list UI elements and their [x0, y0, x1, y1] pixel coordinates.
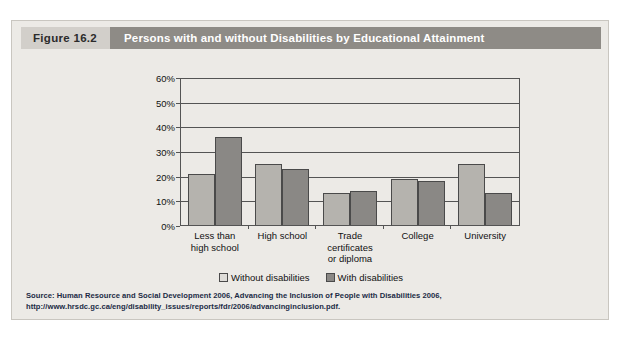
x-axis-label: University — [451, 230, 519, 265]
bar — [188, 174, 215, 225]
y-tick-mark-40 — [176, 127, 180, 128]
legend-swatch-icon — [326, 273, 335, 282]
bar-group — [249, 79, 317, 225]
x-axis-label-line: University — [451, 230, 519, 242]
chart-legend: Without disabilitiesWith disabilities — [21, 272, 601, 283]
bar-group — [316, 79, 384, 225]
y-tick-mark-30 — [176, 152, 180, 153]
bar — [458, 164, 485, 225]
y-tick-label-60: 60% — [156, 73, 175, 84]
x-axis-label-line: certificates — [316, 242, 384, 254]
x-tick-mark — [248, 225, 249, 229]
y-tick-label-10: 10% — [156, 196, 175, 207]
x-tick-mark — [450, 225, 451, 229]
x-tick-mark — [315, 225, 316, 229]
bar — [485, 193, 512, 225]
x-axis-label-line: College — [384, 230, 452, 242]
y-tick-label-50: 50% — [156, 97, 175, 108]
figure-panel: Figure 16.2 Persons with and without Dis… — [11, 20, 609, 320]
bar — [255, 164, 282, 225]
x-axis-labels: Less thanhigh schoolHigh schoolTradecert… — [181, 230, 519, 265]
figure-title: Persons with and without Disabilities by… — [110, 27, 601, 49]
y-tick-label-30: 30% — [156, 147, 175, 158]
x-axis-label-line: High school — [249, 230, 317, 242]
bar — [418, 181, 445, 225]
bar — [391, 179, 418, 225]
plot-area: 0%10%20%30%40%50%60% — [180, 78, 520, 226]
x-axis-label-line: or diploma — [316, 253, 384, 265]
bar — [215, 137, 242, 225]
bar — [282, 169, 309, 225]
legend-label: With disabilities — [338, 272, 403, 283]
x-axis-label-line: Less than — [181, 230, 249, 242]
y-tick-mark-20 — [176, 177, 180, 178]
legend-item: With disabilities — [326, 272, 403, 283]
x-axis-label: Tradecertificatesor diploma — [316, 230, 384, 265]
y-tick-label-0: 0% — [161, 221, 175, 232]
bar-group — [451, 79, 519, 225]
legend-swatch-icon — [219, 273, 228, 282]
bar-group — [181, 79, 249, 225]
x-axis-label-line: high school — [181, 242, 249, 254]
legend-item: Without disabilities — [219, 272, 310, 283]
y-tick-mark-0 — [176, 226, 180, 227]
bar — [323, 193, 350, 225]
legend-label: Without disabilities — [231, 272, 310, 283]
x-axis-label: Less thanhigh school — [181, 230, 249, 265]
y-tick-mark-50 — [176, 103, 180, 104]
chart-canvas: 0%10%20%30%40%50%60% Less thanhigh schoo… — [21, 54, 601, 286]
bar-groups — [181, 79, 519, 225]
x-axis-label: High school — [249, 230, 317, 265]
y-tick-label-20: 20% — [156, 171, 175, 182]
x-axis-label: College — [384, 230, 452, 265]
figure-header: Figure 16.2 Persons with and without Dis… — [21, 27, 601, 49]
x-tick-mark — [383, 225, 384, 229]
figure-number-label: Figure 16.2 — [21, 27, 110, 49]
bar-group — [384, 79, 452, 225]
y-tick-label-40: 40% — [156, 122, 175, 133]
y-tick-mark-10 — [176, 201, 180, 202]
y-tick-mark-60 — [176, 78, 180, 79]
x-axis-label-line: Trade — [316, 230, 384, 242]
bar — [350, 191, 377, 225]
figure-source-note: Source: Human Resource and Social Develo… — [26, 291, 596, 312]
